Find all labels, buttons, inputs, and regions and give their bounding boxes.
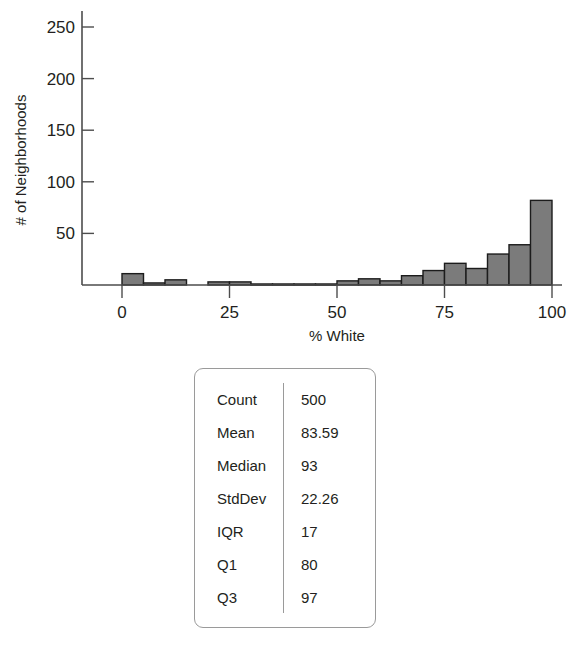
table-row: Q397 — [195, 581, 375, 614]
table-row: IQR17 — [195, 515, 375, 548]
x-tick-label: 50 — [328, 303, 347, 322]
stat-value: 22.26 — [283, 482, 339, 515]
x-axis-title: % White — [309, 327, 365, 344]
table-body: Count500Mean83.59Median93StdDev22.26IQR1… — [195, 383, 375, 614]
table-row: Median93 — [195, 449, 375, 482]
y-tick-label: 50 — [56, 224, 75, 243]
stat-label: IQR — [195, 515, 283, 548]
y-axis-title: # of Neighborhoods — [12, 95, 29, 226]
stat-label: Q1 — [195, 548, 283, 581]
x-tick-label: 25 — [220, 303, 239, 322]
histogram-bar — [509, 245, 531, 285]
histogram-bar — [402, 276, 424, 285]
stat-value: 83.59 — [283, 416, 339, 449]
stat-value: 17 — [283, 515, 318, 548]
table-column-divider — [283, 383, 284, 613]
histogram-bar — [466, 268, 488, 285]
histogram-bar — [445, 263, 467, 285]
x-tick-label: 0 — [117, 303, 126, 322]
stat-value: 80 — [283, 548, 318, 581]
histogram-bar — [423, 271, 445, 285]
x-tick-label: 75 — [435, 303, 454, 322]
y-tick-label: 200 — [47, 70, 75, 89]
stat-label: Median — [195, 449, 283, 482]
stat-value: 97 — [283, 581, 318, 614]
histogram-bar — [122, 274, 144, 285]
histogram-bars — [122, 200, 552, 285]
stat-label: Count — [195, 383, 283, 416]
table-row: Count500 — [195, 383, 375, 416]
stat-value: 93 — [283, 449, 318, 482]
histogram-figure: 501001502002500255075100 # of Neighborho… — [0, 0, 568, 345]
y-tick-label: 250 — [47, 18, 75, 37]
stat-label: StdDev — [195, 482, 283, 515]
histogram-bar — [488, 254, 510, 285]
histogram-bar — [531, 200, 553, 285]
table-row: Mean83.59 — [195, 416, 375, 449]
table-row: Q180 — [195, 548, 375, 581]
histogram-svg: 501001502002500255075100 # of Neighborho… — [0, 0, 568, 345]
table-row: StdDev22.26 — [195, 482, 375, 515]
stat-label: Mean — [195, 416, 283, 449]
stat-label: Q3 — [195, 581, 283, 614]
y-tick-label: 150 — [47, 121, 75, 140]
x-tick-label: 100 — [538, 303, 566, 322]
y-tick-label: 100 — [47, 173, 75, 192]
summary-statistics-table: Count500Mean83.59Median93StdDev22.26IQR1… — [194, 368, 376, 628]
stat-value: 500 — [283, 383, 326, 416]
histogram-bar — [359, 279, 381, 285]
